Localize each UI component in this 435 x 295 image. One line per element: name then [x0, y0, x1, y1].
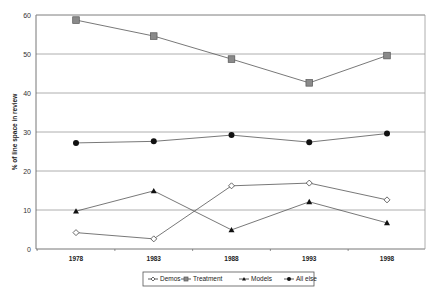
diamond-marker-icon: [151, 236, 157, 242]
diamond-marker-icon: [229, 183, 235, 189]
triangle-marker-icon: [306, 199, 312, 204]
diamond-marker-icon: [306, 180, 312, 186]
y-tick-label: 30: [23, 129, 31, 136]
square-marker-icon: [384, 52, 391, 59]
x-tick-label: 1988: [224, 255, 239, 262]
y-tick-label: 40: [23, 90, 31, 97]
x-tick-label: 1998: [380, 255, 395, 262]
line-chart: 0102030405060 19781983198819931998 % of …: [0, 0, 435, 295]
y-axis-ticks: 0102030405060: [23, 12, 31, 253]
circle-marker-icon: [229, 132, 235, 138]
circle-marker-icon: [306, 139, 312, 145]
square-marker-icon: [228, 56, 235, 63]
series-treatment: [73, 17, 391, 86]
square-marker-icon: [73, 17, 80, 24]
x-tick-label: 1993: [302, 255, 317, 262]
legend: DemosTreatmentModelsAll else: [143, 272, 317, 286]
y-tick-label: 60: [23, 12, 31, 19]
series-line: [76, 20, 387, 83]
circle-marker-icon: [287, 277, 291, 281]
square-marker-icon: [150, 33, 157, 40]
y-tick-label: 0: [27, 246, 31, 253]
series-all-else: [73, 131, 390, 146]
triangle-marker-icon: [229, 227, 235, 232]
series-lines: [73, 17, 391, 242]
legend-label: Models: [251, 275, 273, 282]
square-marker-icon: [184, 277, 188, 281]
circle-marker-icon: [151, 138, 157, 144]
y-tick-label: 20: [23, 168, 31, 175]
y-tick-label: 50: [23, 51, 31, 58]
legend-label: Demos: [160, 275, 181, 282]
diamond-marker-icon: [384, 197, 390, 203]
legend-label: Treatment: [193, 275, 223, 282]
legend-label: All else: [296, 275, 317, 282]
x-axis-ticks: 19781983198819931998: [37, 249, 394, 262]
y-axis-title: % of line space in review: [11, 93, 19, 171]
x-tick-label: 1978: [69, 255, 84, 262]
chart-canvas: 0102030405060 19781983198819931998 % of …: [0, 0, 435, 295]
circle-marker-icon: [73, 140, 79, 146]
diamond-marker-icon: [73, 230, 79, 236]
x-tick-label: 1983: [147, 255, 162, 262]
square-marker-icon: [306, 80, 313, 87]
gridlines: [36, 15, 425, 210]
y-tick-label: 10: [23, 207, 31, 214]
circle-marker-icon: [384, 131, 390, 137]
triangle-marker-icon: [151, 188, 157, 193]
